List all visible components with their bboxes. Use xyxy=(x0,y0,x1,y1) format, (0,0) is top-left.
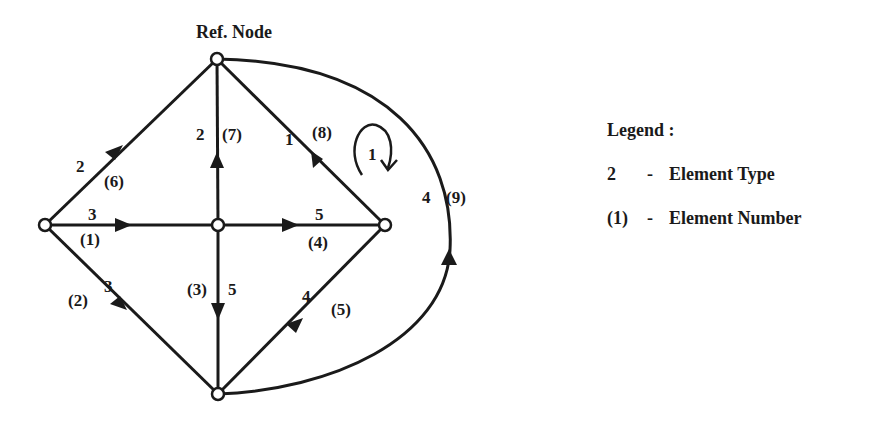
edge-2-number: (2) xyxy=(68,291,88,310)
edge-2-type: 3 xyxy=(104,277,113,296)
edge-1-type: 3 xyxy=(88,205,97,224)
edge-1-number: (1) xyxy=(80,230,100,249)
edge-5-number: (5) xyxy=(331,300,351,319)
edge-9-number: (9) xyxy=(446,188,466,207)
arrow-icon xyxy=(311,151,323,168)
edge-4-type: 5 xyxy=(315,205,324,224)
arrow-icon xyxy=(441,249,457,265)
edge-5 xyxy=(218,225,385,394)
legend-item: 2-Element Type xyxy=(607,164,801,208)
node-bottom xyxy=(212,388,224,400)
edge-8-type: 1 xyxy=(285,130,294,149)
edge-9-type: 4 xyxy=(422,188,431,207)
edge-8 xyxy=(217,59,385,225)
arrow-icon xyxy=(210,152,224,168)
arrow-icon xyxy=(115,218,132,232)
edge-6 xyxy=(45,59,217,225)
edge-7-type: 2 xyxy=(196,125,205,144)
edge-6-number: (6) xyxy=(104,172,124,191)
legend-symbol: 2 xyxy=(607,164,647,184)
loop-label: 1 xyxy=(368,145,377,164)
edge-6-type: 2 xyxy=(76,157,85,176)
node-center xyxy=(212,219,224,231)
node-left xyxy=(39,219,51,231)
legend-item: (1)-Element Number xyxy=(607,208,801,252)
edge-7-number: (7) xyxy=(222,125,242,144)
legend-symbol: (1) xyxy=(607,208,647,228)
legend-label: Element Type xyxy=(669,164,775,184)
legend: Legend : 2-Element Type (1)-Element Numb… xyxy=(607,120,801,252)
arrow-icon xyxy=(286,318,303,333)
legend-title: Legend : xyxy=(607,120,801,164)
arrow-icon xyxy=(282,218,299,232)
edge-3-number: (3) xyxy=(187,280,207,299)
edge-4-number: (4) xyxy=(308,233,328,252)
node-right xyxy=(379,219,391,231)
arrow-icon xyxy=(211,303,225,320)
legend-separator: - xyxy=(647,164,669,184)
edge-7 xyxy=(217,59,218,225)
edge-3-type: 5 xyxy=(228,280,237,299)
edge-8-number: (8) xyxy=(312,123,332,142)
ref-node-label: Ref. Node xyxy=(196,22,272,42)
legend-label: Element Number xyxy=(669,208,801,228)
legend-separator: - xyxy=(647,208,669,228)
node-ref xyxy=(211,53,223,65)
edge-5-type: 4 xyxy=(302,287,311,306)
